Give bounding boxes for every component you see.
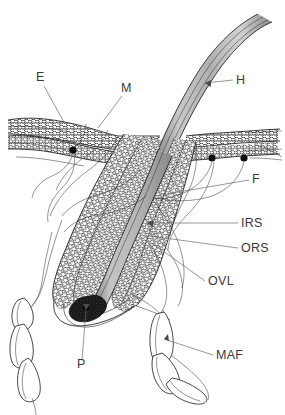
label-papilla: P — [77, 357, 86, 371]
label-outer-root-sheath: ORS — [241, 241, 269, 255]
label-hair-shaft: H — [236, 73, 245, 87]
nerve-ending-dot-left — [69, 146, 76, 153]
nerve-ending-dot-mid — [208, 154, 215, 161]
hair-follicle-diagram: E M H F IRS ORS OVL P MAF — [0, 0, 285, 415]
label-epidermis: E — [36, 70, 45, 84]
figure-root: E M H F IRS ORS OVL P MAF — [0, 0, 285, 415]
label-inner-root-sheath: IRS — [241, 216, 263, 230]
label-muscle-arrector-fibers: MAF — [216, 348, 243, 362]
label-outer-vitreous-layer: OVL — [208, 274, 234, 288]
label-free-nerve-endings: F — [252, 172, 260, 186]
label-melanocyte: M — [121, 81, 132, 95]
nerve-ending-dot-right — [240, 154, 247, 161]
